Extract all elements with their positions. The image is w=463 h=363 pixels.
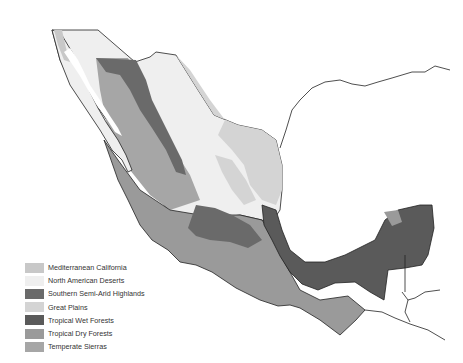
legend-label: Southern Semi-Arid Highlands <box>48 289 145 298</box>
legend-swatch <box>25 315 44 325</box>
us-gulf-coastline <box>280 66 450 148</box>
central-america-outline <box>365 290 445 340</box>
legend-label: Great Plains <box>48 303 88 312</box>
legend-item-tropical-wet-forests: Tropical Wet Forests <box>25 314 145 327</box>
legend-label: Tropical Wet Forests <box>48 316 114 325</box>
legend-item-tropical-dry-forests: Tropical Dry Forests <box>25 327 145 340</box>
legend-label: Temperate Sierras <box>48 342 107 351</box>
legend-label: North American Deserts <box>48 276 124 285</box>
legend-item-southern-semi-arid-highlands: Southern Semi-Arid Highlands <box>25 287 145 300</box>
legend-swatch <box>25 289 44 299</box>
legend-swatch <box>25 276 44 286</box>
legend-label: Tropical Dry Forests <box>48 329 112 338</box>
legend-item-mediterranean-california: Mediterranean California <box>25 261 145 274</box>
legend-label: Mediterranean California <box>48 263 127 272</box>
legend-swatch <box>25 263 44 273</box>
legend-swatch <box>25 329 44 339</box>
legend-item-north-american-deserts: North American Deserts <box>25 274 145 287</box>
legend-swatch <box>25 342 44 352</box>
legend-item-temperate-sierras: Temperate Sierras <box>25 340 145 353</box>
map-legend: Mediterranean California North American … <box>25 261 145 353</box>
legend-swatch <box>25 302 44 312</box>
legend-item-great-plains: Great Plains <box>25 301 145 314</box>
